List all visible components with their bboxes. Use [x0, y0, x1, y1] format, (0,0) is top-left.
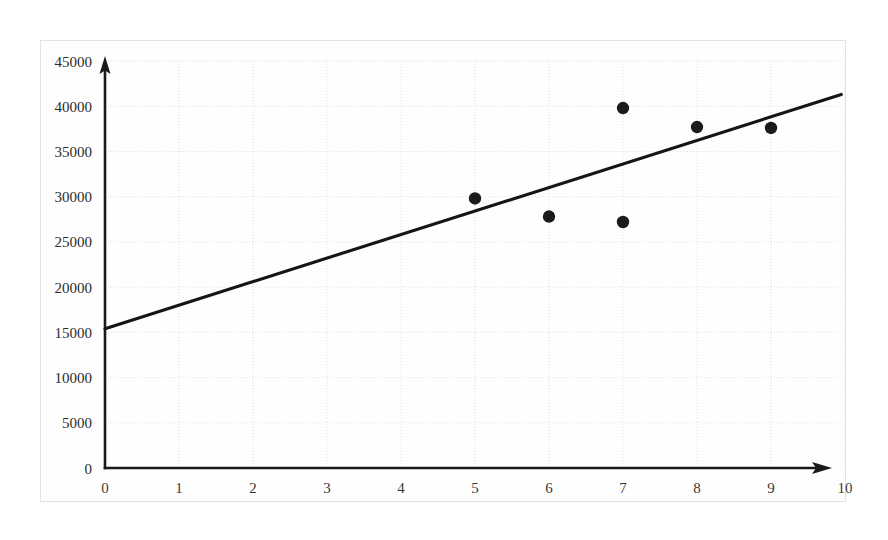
data-point	[543, 210, 555, 222]
x-tick-label: 6	[545, 480, 553, 496]
y-tick-label: 40000	[55, 99, 93, 115]
y-tick-label: 0	[85, 461, 93, 477]
x-axis-tick-labels: 012345678910	[101, 480, 852, 496]
y-tick-label: 20000	[55, 280, 93, 296]
y-tick-label: 15000	[55, 325, 93, 341]
y-tick-label: 5000	[62, 415, 92, 431]
x-tick-label: 3	[323, 480, 331, 496]
x-tick-label: 7	[619, 480, 627, 496]
y-tick-label: 25000	[55, 234, 93, 250]
data-point	[617, 102, 629, 114]
trend-line	[105, 94, 841, 328]
data-point	[469, 192, 481, 204]
plot-area: 0500010000150002000025000300003500040000…	[0, 0, 888, 540]
y-tick-label: 35000	[55, 144, 93, 160]
x-tick-label: 2	[249, 480, 257, 496]
data-point	[617, 216, 629, 228]
x-tick-label: 4	[397, 480, 405, 496]
x-tick-label: 8	[693, 480, 701, 496]
y-tick-label: 45000	[55, 54, 93, 70]
x-tick-label: 5	[471, 480, 479, 496]
y-tick-label: 10000	[55, 370, 93, 386]
vertical-gridlines	[179, 61, 845, 468]
x-tick-label: 1	[175, 480, 183, 496]
scatter-chart: 0500010000150002000025000300003500040000…	[0, 0, 888, 540]
data-point	[765, 122, 777, 134]
x-tick-label: 10	[838, 480, 853, 496]
y-axis-tick-labels: 0500010000150002000025000300003500040000…	[55, 54, 93, 477]
y-tick-label: 30000	[55, 189, 93, 205]
x-tick-label: 9	[767, 480, 775, 496]
axis-group	[100, 56, 833, 474]
horizontal-gridlines	[105, 61, 838, 423]
x-tick-label: 0	[101, 480, 109, 496]
data-point	[691, 121, 703, 133]
